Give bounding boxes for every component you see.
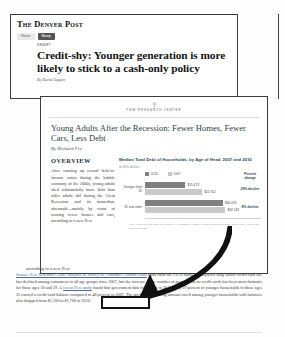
pew-report-author: By Richard Fry bbox=[41, 143, 267, 151]
pew-branding: PEW RESEARCH CENTER bbox=[41, 97, 267, 112]
curved-arrow-annotation bbox=[112, 226, 232, 304]
bar-group-35-and-older: 35 and older $30,070 $32,543 8% decline bbox=[119, 200, 261, 214]
pew-overview-column: OVERVIEW After running up record debt-to… bbox=[41, 157, 119, 230]
overview-paragraph: After running up record debt-to-income r… bbox=[51, 168, 115, 224]
article-kicker: SMART bbox=[11, 40, 237, 47]
overview-heading: OVERVIEW bbox=[51, 157, 115, 164]
percent-change-1: 8% decline bbox=[239, 205, 261, 209]
pew-report-title: Young Adults After the Recession: Fewer … bbox=[41, 118, 267, 143]
bar-2007-0 bbox=[145, 189, 202, 195]
legend-label-2007: 2007 bbox=[173, 172, 180, 176]
bar-group-label-1: 35 and older bbox=[119, 205, 145, 209]
legend-swatch-2007 bbox=[168, 172, 172, 176]
article-byline: By Rachel Segain bbox=[11, 74, 237, 82]
arrow-head-icon bbox=[140, 274, 160, 296]
bar-group-label-0: Younger than 35 bbox=[119, 185, 145, 193]
body-inline-link[interactable]: recent Pew study bbox=[63, 285, 92, 290]
newspaper-article-card: The Denver Post Home Story SMART Credit-… bbox=[10, 14, 238, 99]
pew-chart-column: Median Total Debt of Households, by Age … bbox=[119, 157, 267, 230]
tab-home[interactable]: Home bbox=[17, 33, 35, 40]
bar-2010-1 bbox=[145, 200, 223, 206]
percent-change-0: 29% decline bbox=[239, 187, 261, 191]
legend-swatch-2010 bbox=[145, 172, 149, 176]
bar-pair-1: $30,070 $32,543 bbox=[145, 200, 239, 214]
pew-two-column-layout: OVERVIEW After running up record debt-to… bbox=[41, 151, 267, 230]
newspaper-masthead: The Denver Post bbox=[11, 15, 237, 29]
arrow-curve bbox=[150, 228, 230, 296]
article-right-edge bbox=[278, 14, 279, 99]
page-bottom-divider bbox=[16, 332, 262, 333]
pew-logo-icon bbox=[152, 102, 157, 107]
top-scan-margin bbox=[0, 0, 285, 6]
legend-label-2010: 2010 bbox=[151, 172, 158, 176]
pew-brand-text: PEW RESEARCH CENTER bbox=[41, 108, 267, 112]
bar-value-2007-0: $21,912 bbox=[204, 190, 216, 194]
bar-row-2007-1: $32,543 bbox=[145, 207, 239, 213]
chart-legend: 2010 2007 Percent change bbox=[119, 172, 261, 180]
bar-pair-0: $15,473 $21,912 bbox=[145, 182, 239, 196]
bar-value-2007-1: $32,543 bbox=[227, 208, 239, 212]
bar-value-2010-1: $30,070 bbox=[225, 201, 237, 205]
bar-value-2010-0: $15,473 bbox=[187, 183, 199, 187]
overview-continuation-text: according to a new Pew bbox=[26, 266, 70, 271]
bar-2007-1 bbox=[145, 207, 225, 213]
bar-row-2010-0: $15,473 bbox=[145, 182, 239, 188]
tab-story[interactable]: Story bbox=[38, 33, 55, 40]
bar-row-2010-1: $30,070 bbox=[145, 200, 239, 206]
bar-2010-0 bbox=[145, 182, 185, 188]
chart-subtitle: in 2011 dollars bbox=[119, 165, 261, 169]
percent-change-header: Percent change bbox=[239, 172, 261, 180]
breadcrumb-tabs: Home Story bbox=[11, 29, 237, 40]
bar-row-2007-0: $21,912 bbox=[145, 189, 239, 195]
article-headline: Credit-shy: Younger generation is more l… bbox=[11, 47, 237, 74]
bar-group-younger-than-35: Younger than 35 $15,473 $21,912 29% decl… bbox=[119, 182, 261, 196]
legend-item-2007: 2007 bbox=[168, 172, 181, 176]
screenshot-page: The Denver Post Home Story SMART Credit-… bbox=[0, 0, 285, 337]
legend-item-2010: 2010 bbox=[145, 172, 158, 176]
chart-title: Median Total Debt of Households, by Age … bbox=[119, 157, 261, 163]
